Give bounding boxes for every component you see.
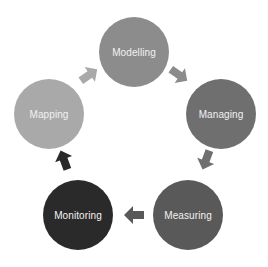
cycle-diagram: Modelling Managing Measuring Monitoring … xyxy=(0,0,268,267)
arrow-mapping-to-modelling-icon xyxy=(76,62,102,88)
node-label: Measuring xyxy=(164,210,212,221)
arrow-measuring-to-monitoring-icon xyxy=(121,202,147,228)
node-label: Monitoring xyxy=(54,210,102,221)
arrow-modelling-to-managing-icon xyxy=(166,62,192,88)
node-monitoring: Monitoring xyxy=(43,180,113,250)
arrow-managing-to-measuring-icon xyxy=(193,147,219,173)
arrow-monitoring-to-mapping-icon xyxy=(51,147,77,173)
node-mapping: Mapping xyxy=(14,79,84,149)
node-measuring: Measuring xyxy=(153,180,223,250)
node-modelling: Modelling xyxy=(99,17,169,87)
node-label: Managing xyxy=(199,109,244,120)
node-label: Modelling xyxy=(112,47,156,58)
node-managing: Managing xyxy=(186,79,256,149)
node-label: Mapping xyxy=(29,109,68,120)
